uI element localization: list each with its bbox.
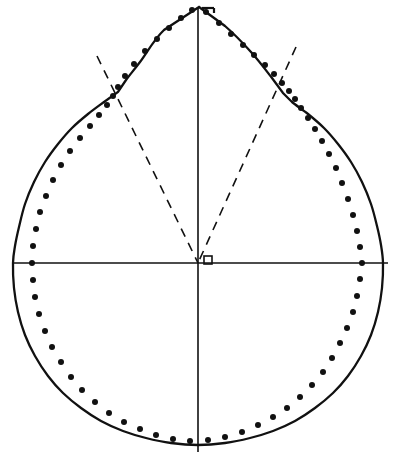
data-point-26	[337, 340, 343, 346]
data-point-2	[228, 31, 234, 37]
data-point-15	[333, 165, 339, 171]
data-point-53	[30, 243, 36, 249]
data-point-37	[187, 438, 193, 444]
data-point-20	[357, 244, 363, 250]
data-point-55	[37, 209, 43, 215]
data-point-22	[357, 276, 363, 282]
data-point-4	[251, 52, 257, 58]
data-point-31	[284, 405, 290, 411]
data-point-72	[189, 7, 195, 13]
data-point-0	[203, 9, 209, 15]
data-point-49	[36, 311, 42, 317]
left-dashed-ray	[97, 56, 198, 263]
data-point-12	[312, 126, 318, 132]
data-point-69	[154, 36, 160, 42]
data-point-27	[329, 355, 335, 361]
data-point-38	[170, 436, 176, 442]
data-point-14	[326, 151, 332, 157]
data-point-17	[345, 196, 351, 202]
data-point-65	[115, 84, 121, 90]
data-point-50	[32, 294, 38, 300]
data-point-35	[222, 434, 228, 440]
data-point-45	[68, 374, 74, 380]
data-point-5	[262, 62, 268, 68]
data-point-41	[121, 419, 127, 425]
data-point-13	[319, 138, 325, 144]
data-point-54	[33, 226, 39, 232]
data-point-11	[305, 115, 311, 121]
data-point-6	[271, 71, 277, 77]
data-point-68	[142, 48, 148, 54]
data-point-56	[43, 193, 49, 199]
data-point-34	[239, 429, 245, 435]
data-point-40	[137, 426, 143, 432]
data-point-33	[255, 422, 261, 428]
data-point-42	[106, 410, 112, 416]
data-point-29	[309, 382, 315, 388]
data-point-19	[354, 228, 360, 234]
data-point-1	[216, 20, 222, 26]
data-point-46	[58, 359, 64, 365]
curve-figure	[0, 0, 409, 459]
data-point-28	[320, 369, 326, 375]
data-point-24	[350, 309, 356, 315]
data-point-62	[96, 112, 102, 118]
data-point-9	[292, 96, 298, 102]
markers-group	[202, 8, 214, 264]
axes-group	[12, 8, 388, 452]
data-point-58	[58, 162, 64, 168]
data-point-30	[297, 394, 303, 400]
data-point-44	[79, 387, 85, 393]
data-point-39	[153, 432, 159, 438]
data-point-23	[354, 293, 360, 299]
data-point-48	[42, 328, 48, 334]
measured-data-points-group	[29, 7, 365, 444]
data-point-60	[77, 135, 83, 141]
data-point-66	[122, 73, 128, 79]
data-point-36	[205, 437, 211, 443]
data-point-47	[49, 344, 55, 350]
data-point-59	[67, 148, 73, 154]
data-point-3	[240, 42, 246, 48]
data-point-51	[30, 277, 36, 283]
data-point-32	[270, 414, 276, 420]
data-point-67	[131, 61, 137, 67]
data-point-10	[298, 105, 304, 111]
data-point-63	[104, 102, 110, 108]
data-point-8	[286, 88, 292, 94]
data-point-70	[166, 25, 172, 31]
data-point-71	[178, 15, 184, 21]
data-point-57	[50, 177, 56, 183]
data-point-16	[339, 180, 345, 186]
diagram-canvas	[0, 0, 409, 459]
data-point-61	[87, 123, 93, 129]
data-point-18	[350, 212, 356, 218]
data-point-25	[344, 325, 350, 331]
right-dashed-ray	[198, 47, 296, 263]
data-point-43	[92, 399, 98, 405]
data-point-64	[110, 93, 116, 99]
